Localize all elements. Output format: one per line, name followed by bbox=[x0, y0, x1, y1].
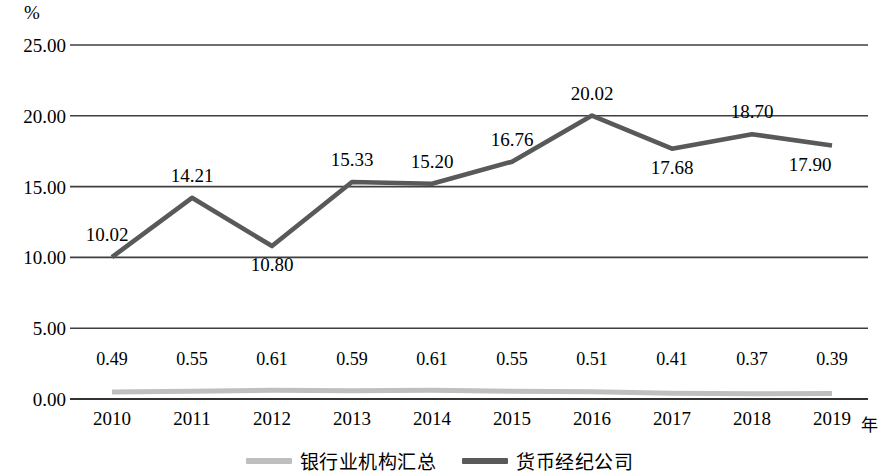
legend-swatch-banking bbox=[246, 458, 292, 464]
data-label-banking-2017: 0.41 bbox=[656, 349, 688, 370]
x-axis-tick-2016: 2016 bbox=[573, 408, 611, 430]
chart-container: % 0.005.0010.0015.0020.0025.00 201020112… bbox=[0, 0, 879, 476]
x-axis-tick-2018: 2018 bbox=[733, 408, 771, 430]
series-line-banking bbox=[112, 390, 832, 393]
data-label-broker-2011: 14.21 bbox=[171, 165, 214, 187]
x-axis-tick-2010: 2010 bbox=[93, 408, 131, 430]
legend-item-broker[interactable]: 货币经纪公司 bbox=[462, 447, 633, 474]
data-label-broker-2012: 10.80 bbox=[251, 254, 294, 276]
x-axis-tick-2013: 2013 bbox=[333, 408, 371, 430]
x-axis-unit-label: 年 bbox=[861, 411, 878, 436]
legend-item-banking[interactable]: 银行业机构汇总 bbox=[246, 447, 437, 474]
data-label-broker-2010: 10.02 bbox=[86, 224, 129, 246]
x-axis-tick-2011: 2011 bbox=[173, 408, 210, 430]
data-label-banking-2014: 0.61 bbox=[416, 349, 448, 370]
data-label-banking-2010: 0.49 bbox=[96, 349, 128, 370]
data-label-banking-2018: 0.37 bbox=[736, 349, 768, 370]
data-label-broker-2014: 15.20 bbox=[411, 151, 454, 173]
legend-label-banking: 银行业机构汇总 bbox=[300, 447, 437, 474]
plot-area bbox=[0, 0, 879, 476]
data-label-banking-2015: 0.55 bbox=[496, 349, 528, 370]
data-label-banking-2019: 0.39 bbox=[816, 349, 848, 370]
x-axis-tick-2017: 2017 bbox=[653, 408, 691, 430]
data-label-banking-2013: 0.59 bbox=[336, 349, 368, 370]
data-label-broker-2017: 17.68 bbox=[651, 157, 694, 179]
data-label-broker-2013: 15.33 bbox=[331, 149, 374, 171]
x-axis-tick-2014: 2014 bbox=[413, 408, 451, 430]
legend-swatch-broker bbox=[462, 458, 508, 464]
data-label-banking-2011: 0.55 bbox=[176, 349, 208, 370]
data-label-broker-2018: 18.70 bbox=[731, 101, 774, 123]
data-label-banking-2016: 0.51 bbox=[576, 349, 608, 370]
data-label-banking-2012: 0.61 bbox=[256, 349, 288, 370]
data-label-broker-2019: 17.90 bbox=[789, 154, 832, 176]
data-label-broker-2015: 16.76 bbox=[491, 129, 534, 151]
chart-legend: 银行业机构汇总 货币经纪公司 bbox=[0, 447, 879, 474]
legend-label-broker: 货币经纪公司 bbox=[516, 447, 633, 474]
x-axis-tick-2012: 2012 bbox=[253, 408, 291, 430]
x-axis-tick-2019: 2019 bbox=[813, 408, 851, 430]
x-axis-tick-2015: 2015 bbox=[493, 408, 531, 430]
data-label-broker-2016: 20.02 bbox=[571, 83, 614, 105]
